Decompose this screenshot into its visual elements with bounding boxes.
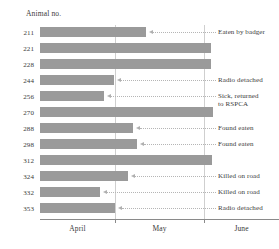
bar-animal-312[interactable] — [40, 155, 212, 165]
bar-animal-270[interactable] — [40, 107, 213, 117]
gridline-june — [204, 25, 205, 219]
bar-animal-298[interactable] — [40, 139, 137, 149]
leader-line — [135, 176, 216, 178]
annotation-211: Eaten by badger — [218, 28, 265, 37]
x-axis-line — [40, 219, 279, 220]
bar-animal-211[interactable] — [40, 27, 146, 37]
y-label-353: 353 — [8, 205, 34, 213]
y-label-332: 332 — [8, 189, 34, 197]
annotation-298: Found eaten — [218, 140, 254, 149]
y-label-221: 221 — [8, 45, 34, 53]
y-label-228: 228 — [8, 61, 34, 69]
leader-line — [121, 80, 216, 82]
annotation-244: Radio detached — [218, 76, 263, 85]
annotation-256: Sick, returned to RSPCA — [218, 92, 259, 109]
annotation-288: Found eaten — [218, 124, 254, 133]
bar-animal-332[interactable] — [40, 187, 100, 197]
leader-line — [153, 32, 216, 34]
y-label-211: 211 — [8, 29, 34, 37]
leader-line — [107, 192, 216, 194]
x-axis-tick — [204, 219, 205, 223]
x-label-april: April — [40, 224, 115, 233]
gridline-may — [115, 25, 116, 219]
bar-animal-324[interactable] — [40, 171, 128, 181]
annotation-353: Radio detached — [218, 204, 263, 213]
bar-animal-353[interactable] — [40, 203, 115, 213]
y-label-256: 256 — [8, 93, 34, 101]
x-label-june: June — [204, 224, 279, 233]
leader-line — [122, 208, 216, 210]
y-label-324: 324 — [8, 173, 34, 181]
bar-animal-221[interactable] — [40, 43, 211, 53]
annotation-332: Killed on road — [218, 188, 260, 197]
bar-animal-228[interactable] — [40, 59, 211, 69]
leader-line — [140, 128, 216, 130]
y-axis-title: Animal no. — [26, 9, 61, 18]
leader-line — [144, 144, 216, 146]
bar-animal-288[interactable] — [40, 123, 133, 133]
annotation-324: Killed on road — [218, 172, 260, 181]
bar-chart: Animal no. 21122122824425627028829831232… — [0, 0, 279, 249]
y-label-270: 270 — [8, 109, 34, 117]
x-label-may: May — [115, 224, 204, 233]
x-axis-tick — [115, 219, 116, 223]
leader-line — [111, 96, 216, 98]
bar-animal-256[interactable] — [40, 91, 104, 101]
y-label-298: 298 — [8, 141, 34, 149]
bar-animal-244[interactable] — [40, 75, 114, 85]
y-label-244: 244 — [8, 77, 34, 85]
y-label-288: 288 — [8, 125, 34, 133]
y-label-312: 312 — [8, 157, 34, 165]
